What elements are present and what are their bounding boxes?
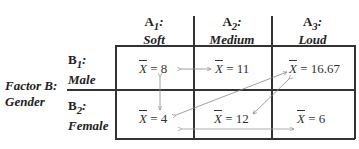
comparison-arrows <box>0 0 359 149</box>
arrow-b2a1-b1a3 <box>176 72 287 115</box>
arrow-b1a3-b2a2 <box>253 79 289 114</box>
